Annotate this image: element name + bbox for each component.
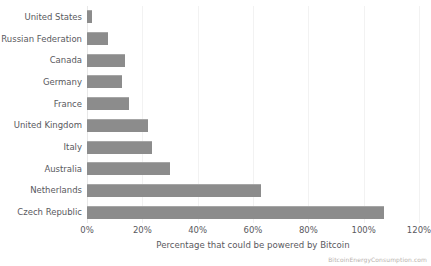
bar-row: [87, 201, 419, 223]
x-tick-label: 120%: [407, 225, 431, 236]
watermark-source: BitcoinEnergyConsumption.com: [328, 256, 427, 264]
x-axis-title: Percentage that could be powered by Bitc…: [87, 240, 419, 251]
y-axis-category-labels: United StatesRussian FederationCanadaGer…: [0, 6, 82, 223]
x-tick-label: 40%: [188, 225, 207, 236]
x-tick-label: 0%: [80, 225, 94, 236]
gridline: [419, 6, 420, 223]
category-label: France: [0, 99, 82, 109]
category-label: Czech Republic: [0, 207, 82, 217]
bar-row: [87, 180, 419, 202]
category-label: Australia: [0, 164, 82, 174]
category-label: Germany: [0, 77, 82, 87]
bar: [87, 119, 148, 132]
bitcoin-energy-bar-chart: United StatesRussian FederationCanadaGer…: [0, 0, 431, 266]
bar: [87, 97, 129, 110]
bar: [87, 141, 152, 154]
x-axis-tick-labels: 0%20%40%60%80%100%120%: [87, 225, 419, 237]
category-label: Netherlands: [0, 185, 82, 195]
bar: [87, 54, 125, 67]
bar-row: [87, 6, 419, 28]
plot-area: [87, 6, 419, 223]
bar-row: [87, 158, 419, 180]
x-tick-label: 60%: [244, 225, 263, 236]
x-tick-label: 80%: [299, 225, 318, 236]
bar-row: [87, 71, 419, 93]
bar: [87, 32, 108, 45]
bar: [87, 10, 92, 23]
bar: [87, 184, 261, 197]
bar-row: [87, 115, 419, 137]
category-label: Canada: [0, 55, 82, 65]
bar-row: [87, 93, 419, 115]
bar-series: [87, 6, 419, 223]
bar-row: [87, 28, 419, 50]
bar: [87, 75, 122, 88]
category-label: Italy: [0, 142, 82, 152]
x-tick-label: 100%: [352, 225, 376, 236]
category-label: Russian Federation: [0, 34, 82, 44]
x-tick-label: 20%: [133, 225, 152, 236]
bar: [87, 206, 384, 219]
bar-row: [87, 136, 419, 158]
bar: [87, 162, 170, 175]
bar-row: [87, 49, 419, 71]
category-label: United Kingdom: [0, 120, 82, 130]
category-label: United States: [0, 12, 82, 22]
